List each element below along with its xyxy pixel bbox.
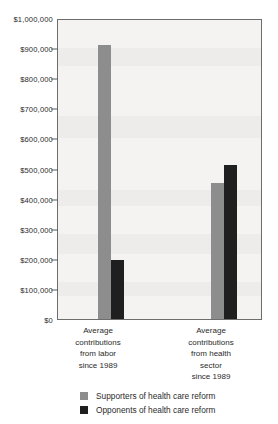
legend-item-opponents: Opponents of health care reform [80, 403, 215, 417]
y-axis-tick-mark [51, 169, 58, 170]
y-axis-tick-mark [51, 199, 58, 200]
y-axis-tick-label: $300,000 [0, 225, 53, 234]
y-axis-tick-label: $900,000 [0, 45, 53, 54]
y-axis-tick-mark [51, 109, 58, 110]
y-axis-tick-label: $200,000 [0, 255, 53, 264]
y-axis-tick-label: $500,000 [0, 165, 53, 174]
y-axis-tick-mark [51, 79, 58, 80]
y-axis-tick-mark [51, 229, 58, 230]
legend-swatch-icon [80, 392, 88, 400]
bar-opponents [224, 165, 237, 319]
category-label-line: Average [46, 325, 150, 337]
category-label-health-sector: Averagecontributionsfrom healthsectorsin… [159, 325, 263, 383]
y-axis-tick-label: $0 [0, 316, 53, 325]
legend-swatch-icon [80, 406, 88, 414]
category-label-line: since 1989 [159, 371, 263, 383]
category-label-line: Average [159, 325, 263, 337]
category-label-line: since 1989 [46, 360, 150, 372]
y-axis-tick-label: $100,000 [0, 285, 53, 294]
bar-chart: $0$100,000$200,000$300,000$400,000$500,0… [0, 0, 278, 424]
bar-opponents [111, 260, 124, 319]
y-axis-tick-mark [51, 49, 58, 50]
y-axis-tick-label: $600,000 [0, 135, 53, 144]
category-label-line: from labor [46, 348, 150, 360]
paper-band [58, 48, 261, 66]
legend: Supporters of health care reform Opponen… [80, 389, 215, 417]
y-axis-tick-label: $1,000,000 [0, 15, 53, 24]
bar-supporters [98, 45, 111, 319]
plot-area [57, 19, 262, 320]
category-label-line: from health [159, 348, 263, 360]
legend-label-opponents: Opponents of health care reform [96, 405, 215, 415]
legend-label-supporters: Supporters of health care reform [96, 391, 215, 401]
y-axis-tick-label: $700,000 [0, 105, 53, 114]
paper-band [58, 116, 261, 138]
y-axis-tick-mark [51, 259, 58, 260]
y-axis-tick-mark [51, 289, 58, 290]
y-axis-tick-label: $400,000 [0, 195, 53, 204]
category-label-line: sector [159, 360, 263, 372]
legend-item-supporters: Supporters of health care reform [80, 389, 215, 403]
category-label-line: contributions [159, 337, 263, 349]
bar-supporters [211, 183, 224, 319]
category-label-line: contributions [46, 337, 150, 349]
category-label-labor: Averagecontributionsfrom laborsince 1989 [46, 325, 150, 371]
y-axis-tick-label: $800,000 [0, 75, 53, 84]
y-axis-tick-mark [51, 139, 58, 140]
